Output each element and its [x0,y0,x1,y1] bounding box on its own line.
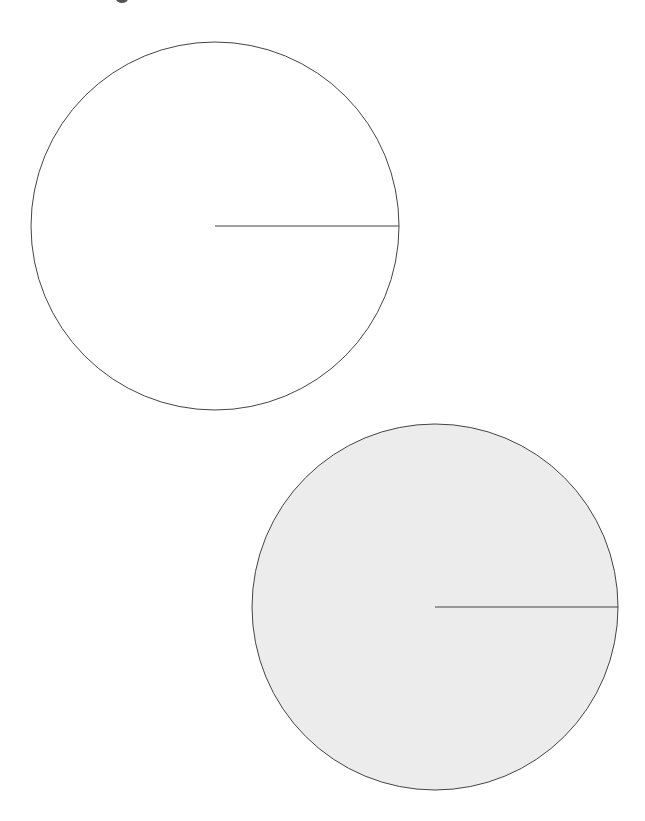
circle-filled-group [252,424,618,790]
circle-outline-group [31,42,399,410]
diagram-canvas [0,0,645,821]
